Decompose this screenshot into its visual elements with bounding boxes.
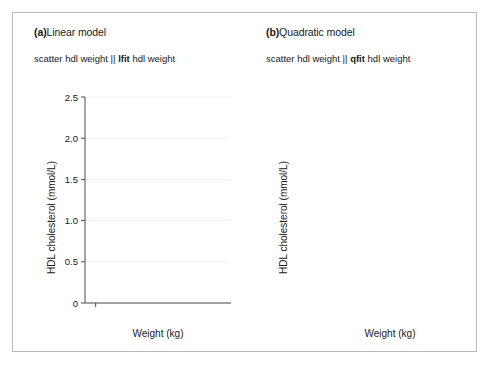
panel-quadratic-model: (b)Quadratic model scatter hdl weight ||… [244, 12, 476, 350]
y-tick-label: 2.5 [65, 92, 78, 103]
y-tick-label: 1.5 [65, 174, 78, 185]
panel-linear-model: (a)Linear model scatter hdl weight || lf… [12, 12, 244, 350]
y-tick-label: 0 [73, 298, 78, 309]
panel-b-plot-canvas [244, 12, 476, 350]
panel-a-plot-canvas: 00.51.01.52.02.5 [12, 12, 244, 350]
y-tick-label: 2.0 [65, 133, 78, 144]
y-tick-label: 1.0 [65, 215, 78, 226]
y-tick-label: 0.5 [65, 256, 78, 267]
